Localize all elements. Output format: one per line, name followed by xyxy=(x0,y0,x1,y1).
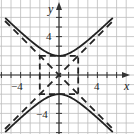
hyperbola-graph: y x −4 4 4 −4 xyxy=(0,0,134,134)
y-tick-label-pos4: 4 xyxy=(46,30,52,42)
y-axis-label: y xyxy=(47,2,54,16)
y-axis-arrow-icon xyxy=(56,2,62,10)
x-tick-label-pos4: 4 xyxy=(94,80,100,92)
y-tick-label-neg4: −4 xyxy=(36,108,48,120)
x-tick-label-neg4: −4 xyxy=(11,80,23,92)
x-axis-label: x xyxy=(123,79,130,93)
